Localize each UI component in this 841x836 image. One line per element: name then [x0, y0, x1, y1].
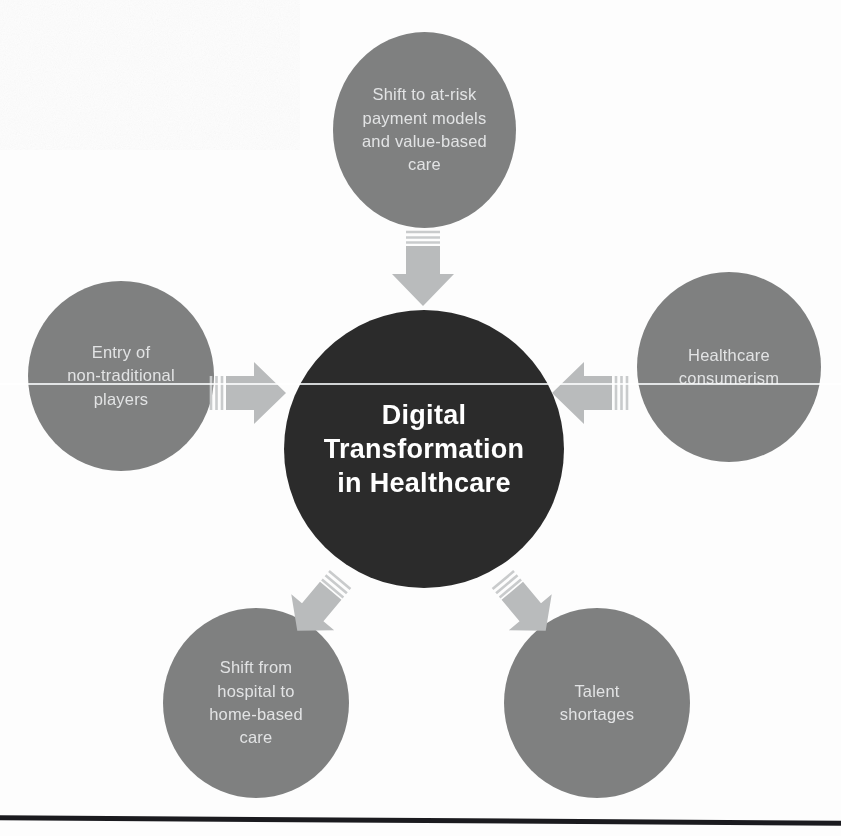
digital-transformation-hub[interactable]: Digital Transformation in Healthcare	[284, 310, 564, 588]
hub-label: Digital Transformation in Healthcare	[314, 398, 535, 500]
node-label: Entry of non-traditional players	[53, 341, 189, 411]
page-edge-line	[0, 815, 841, 826]
node-label: Shift from hospital to home-based care	[195, 656, 317, 750]
arrow-down-icon	[388, 228, 458, 310]
node-shift-from-hospital-to-home-based-care[interactable]: Shift from hospital to home-based care	[163, 608, 349, 798]
arrow-right-icon	[206, 352, 290, 434]
paper-grain-texture	[0, 0, 300, 150]
node-talent-shortages[interactable]: Talent shortages	[504, 608, 690, 798]
scan-artifact-line	[0, 383, 841, 385]
diagram-canvas: Shift to at-risk payment models and valu…	[0, 0, 841, 836]
node-shift-to-at-risk-payment-models[interactable]: Shift to at-risk payment models and valu…	[333, 32, 516, 228]
node-label: Talent shortages	[546, 680, 648, 727]
node-healthcare-consumerism[interactable]: Healthcare consumerism	[637, 272, 821, 462]
node-entry-of-non-traditional-players[interactable]: Entry of non-traditional players	[28, 281, 214, 471]
node-label: Shift to at-risk payment models and valu…	[348, 83, 501, 177]
